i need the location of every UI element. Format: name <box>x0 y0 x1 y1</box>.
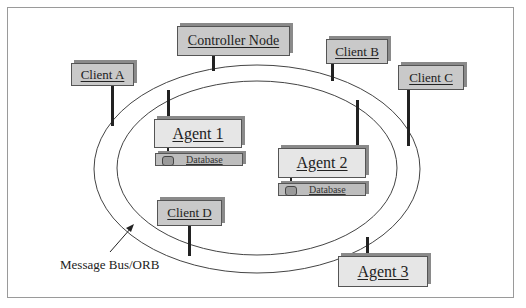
client-a-node[interactable]: Client A <box>71 63 134 86</box>
agent-1-database[interactable]: Database <box>155 153 243 166</box>
arrowhead-icon <box>126 224 134 232</box>
bus-outer-ellipse <box>94 65 420 273</box>
client-a-label: Client A <box>81 67 125 83</box>
client-b-connector <box>331 64 334 81</box>
database-icon <box>162 156 174 166</box>
agent-2-database-label: Database <box>309 184 346 195</box>
agent-3-node[interactable]: Agent 3 <box>338 256 428 287</box>
message-bus-label: Message Bus/ORB <box>60 257 159 273</box>
agent-2-connector <box>356 100 359 146</box>
agent-1-connector <box>167 90 170 117</box>
agent-1-database-label: Database <box>186 154 223 165</box>
agent-2-database[interactable]: Database <box>278 183 366 196</box>
controller-connector <box>212 56 215 71</box>
client-c-label: Client C <box>409 70 453 86</box>
client-d-label: Client D <box>167 205 211 221</box>
client-c-node[interactable]: Client C <box>398 65 464 90</box>
agent-2-node[interactable]: Agent 2 <box>278 148 366 178</box>
client-b-label: Client B <box>335 44 379 60</box>
client-b-node[interactable]: Client B <box>326 39 388 64</box>
agent-1-label: Agent 1 <box>172 125 223 143</box>
client-c-connector <box>407 90 410 146</box>
agent-1-node[interactable]: Agent 1 <box>154 119 242 148</box>
client-a-connector <box>111 86 114 126</box>
controller-node-label: Controller Node <box>188 33 279 49</box>
bus-pointer-arrow <box>110 228 131 252</box>
client-d-connector <box>188 226 191 256</box>
controller-node[interactable]: Controller Node <box>177 26 290 56</box>
client-d-node[interactable]: Client D <box>157 200 222 226</box>
agent-3-label: Agent 3 <box>357 263 408 281</box>
agent-2-label: Agent 2 <box>296 154 347 172</box>
database-icon <box>285 186 297 196</box>
agent-3-connector <box>366 237 369 255</box>
